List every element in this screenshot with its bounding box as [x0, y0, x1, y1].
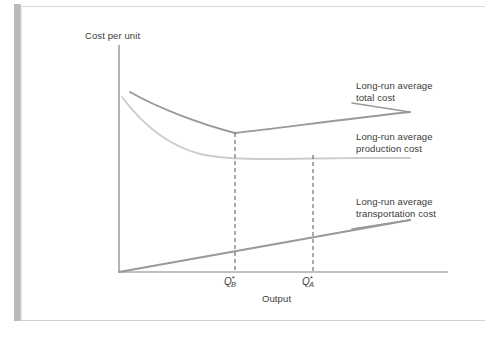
- tick-label-qb: Q*B: [224, 276, 240, 287]
- transportation-cost-leader: [352, 220, 410, 229]
- label-transportation-cost-line2: transportation cost: [356, 208, 436, 220]
- label-transportation-cost-line1: Long-run average: [356, 196, 433, 207]
- label-total-cost-line2: total cost: [356, 92, 433, 104]
- label-total-cost-line1: Long-run average: [356, 80, 433, 91]
- label-total-cost: Long-run average total cost: [356, 80, 433, 103]
- x-axis-label: Output: [262, 293, 291, 304]
- y-axis-label: Cost per unit: [85, 30, 140, 41]
- total-cost-leader: [352, 103, 410, 112]
- tick-label-qb-subscript: B: [231, 280, 236, 289]
- tick-label-qa: Q*A: [302, 276, 318, 287]
- tick-label-qa-subscript: A: [309, 280, 314, 289]
- label-production-cost: Long-run average production cost: [356, 131, 433, 154]
- label-production-cost-line1: Long-run average: [356, 131, 433, 142]
- transportation-cost-line: [119, 220, 410, 272]
- label-production-cost-line2: production cost: [356, 143, 433, 155]
- figure-page: Cost per unit Output Long-run average to…: [0, 0, 485, 339]
- cost-curves-chart: Cost per unit Output Long-run average to…: [0, 0, 485, 339]
- label-transportation-cost: Long-run average transportation cost: [356, 196, 436, 219]
- chart-svg: [0, 0, 485, 339]
